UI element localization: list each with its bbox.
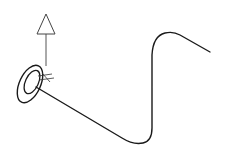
arrow-head bbox=[37, 14, 55, 34]
outer-ring bbox=[12, 61, 48, 106]
start-marker-icon bbox=[12, 61, 54, 106]
sweep-path bbox=[36, 32, 210, 143]
up-arrow-icon bbox=[37, 14, 55, 66]
diagram-canvas bbox=[0, 0, 227, 155]
path-diagram bbox=[0, 0, 227, 155]
